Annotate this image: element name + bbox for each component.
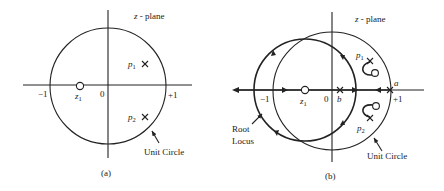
p1-zero-marker (372, 70, 379, 77)
panel-b: z - plane p1 p2 z1 −1 +1 0 b a Root Locu… (232, 12, 424, 181)
caption-a: (a) (101, 168, 111, 178)
plane-label: z - plane (354, 14, 386, 24)
zero-label: z1 (74, 91, 82, 102)
origin-label: 0 (100, 89, 105, 99)
root-locus-label-1: Root (232, 124, 250, 134)
unit-circle-label: Unit Circle (144, 147, 184, 157)
p2-zero-marker (373, 103, 380, 110)
unit-circle-arrow (374, 138, 382, 151)
origin-label: 0 (324, 94, 329, 104)
plane-label: z - plane (133, 11, 165, 21)
arrow-left-end (232, 87, 239, 93)
pole-p1-label: p1 (127, 59, 136, 70)
panel-a: z - plane p1 p2 z1 −1 +1 0 Unit Circle (… (23, 10, 192, 178)
tick-neg1: −1 (260, 94, 270, 104)
tick-neg1: −1 (38, 89, 48, 99)
pole-p1-label: p1 (355, 50, 364, 61)
pole-p2-marker (142, 114, 148, 120)
tick-pos1: +1 (168, 90, 178, 100)
arrow-b-right (352, 87, 358, 93)
unit-circle-arrow (152, 131, 159, 143)
zero-label: z1 (299, 96, 307, 107)
pole-p1-marker (142, 61, 148, 67)
tick-pos1: +1 (393, 94, 403, 104)
zero-marker (301, 86, 308, 93)
arrow-toward-zero (282, 87, 288, 93)
unit-circle-label: Unit Circle (367, 151, 407, 161)
root-locus-arrow (252, 114, 262, 124)
arrow-a-left (375, 87, 381, 93)
root-locus-label-2: Locus (232, 136, 254, 146)
caption-b: (b) (325, 171, 336, 181)
point-a-label: a (394, 78, 399, 88)
zero-marker (76, 82, 83, 89)
z-plane-figure: z - plane p1 p2 z1 −1 +1 0 Unit Circle (… (0, 0, 444, 191)
point-b-label: b (337, 94, 342, 104)
pole-p2-label: p2 (127, 112, 136, 123)
pole-p2-label: p2 (356, 123, 365, 134)
